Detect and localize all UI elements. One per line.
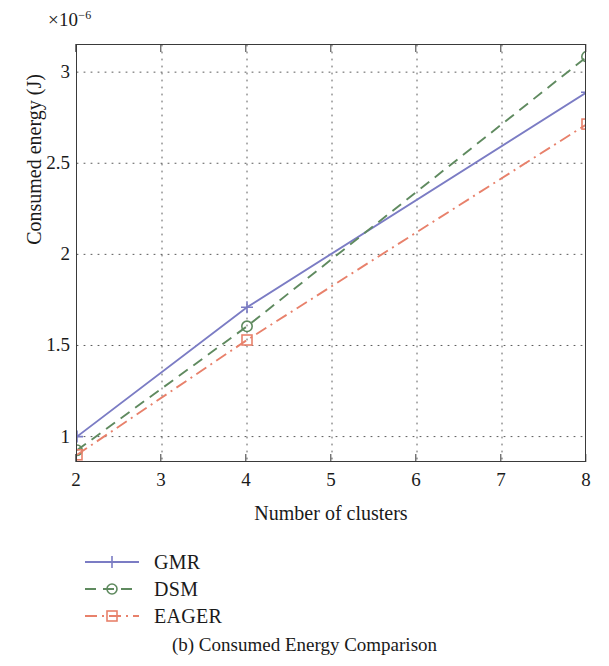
legend-label-gmr: GMR bbox=[154, 552, 200, 572]
x-tick-mark-top bbox=[75, 44, 76, 52]
series-marker-dsm bbox=[582, 51, 585, 61]
y-axis-exponent-base: ×10 bbox=[48, 9, 78, 30]
legend-label-eager: EAGER bbox=[154, 606, 222, 626]
x-tick-mark bbox=[415, 454, 416, 462]
series-marker-dsm bbox=[242, 321, 252, 331]
x-tick-label: 4 bbox=[241, 470, 251, 489]
legend-swatch-gmr bbox=[84, 552, 140, 572]
legend-swatch-dsm bbox=[84, 579, 140, 599]
legend-item-gmr[interactable]: GMR bbox=[84, 548, 222, 575]
x-tick-mark bbox=[500, 454, 501, 462]
legend-swatch-eager bbox=[84, 606, 140, 626]
x-tick-label: 6 bbox=[411, 470, 421, 489]
legend-item-dsm[interactable]: DSM bbox=[84, 575, 222, 602]
x-tick-mark bbox=[585, 454, 586, 462]
x-tick-mark-top bbox=[500, 44, 501, 52]
x-tick-mark-top bbox=[245, 44, 246, 52]
x-tick-mark-top bbox=[415, 44, 416, 52]
x-tick-mark bbox=[75, 454, 76, 462]
y-tick-label: 3 bbox=[4, 62, 70, 81]
x-tick-label: 7 bbox=[496, 470, 506, 489]
legend: GMRDSMEAGER bbox=[84, 548, 222, 629]
legend-item-eager[interactable]: EAGER bbox=[84, 602, 222, 629]
legend-label-dsm: DSM bbox=[154, 579, 198, 599]
plot-area bbox=[76, 44, 586, 462]
y-tick-label: 2 bbox=[4, 244, 70, 263]
plot-inner bbox=[77, 45, 585, 461]
x-tick-mark bbox=[330, 454, 331, 462]
x-tick-mark-top bbox=[585, 44, 586, 52]
y-axis-exponent-power: −6 bbox=[78, 8, 91, 22]
x-axis-label: Number of clusters bbox=[76, 502, 586, 525]
x-tick-mark bbox=[245, 454, 246, 462]
x-tick-mark bbox=[160, 454, 161, 462]
x-tick-mark-top bbox=[160, 44, 161, 52]
x-tick-label: 2 bbox=[71, 470, 81, 489]
x-tick-label: 3 bbox=[156, 470, 166, 489]
x-tick-label: 8 bbox=[581, 470, 591, 489]
x-tick-mark-top bbox=[330, 44, 331, 52]
figure-consumed-energy-comparison: ×10−6 Consumed energy (J) 11.522.53 2345… bbox=[0, 0, 609, 666]
legend-marker-gmr bbox=[106, 556, 118, 568]
series-line-eager bbox=[77, 124, 585, 455]
y-tick-label: 1.5 bbox=[4, 335, 70, 354]
y-tick-label: 2.5 bbox=[4, 153, 70, 172]
data-series-layer bbox=[77, 45, 585, 461]
figure-caption: (b) Consumed Energy Comparison bbox=[0, 634, 609, 656]
y-axis-exponent: ×10−6 bbox=[48, 8, 92, 31]
series-marker-eager bbox=[582, 119, 585, 129]
x-tick-label: 5 bbox=[326, 470, 336, 489]
y-tick-label: 1 bbox=[4, 426, 70, 445]
series-line-gmr bbox=[77, 92, 585, 436]
